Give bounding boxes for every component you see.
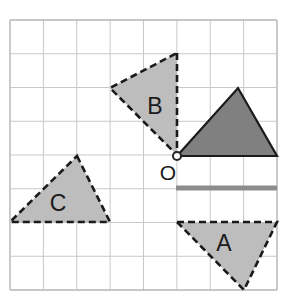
- origin-point-marker: [173, 152, 181, 160]
- geometry-figure: B C A O: [0, 0, 287, 303]
- figure-canvas: B C A O: [0, 0, 287, 303]
- triangle-a-label: A: [216, 230, 232, 256]
- triangle-c-label: C: [50, 190, 67, 216]
- triangle-b-label: B: [147, 93, 162, 119]
- origin-label: O: [160, 161, 176, 184]
